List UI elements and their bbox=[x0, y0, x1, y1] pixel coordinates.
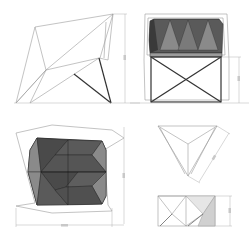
dimension-label-triangle-height bbox=[229, 208, 232, 213]
top-view bbox=[16, 125, 125, 227]
dimension-label-triangle-side bbox=[212, 155, 217, 161]
triangle-elevation-view bbox=[158, 196, 232, 226]
drawing-canvas bbox=[0, 0, 249, 236]
side-view bbox=[14, 14, 140, 103]
triangle-plan-view bbox=[158, 126, 230, 183]
dimension-label-top-depth bbox=[61, 224, 68, 227]
dimension-label-side-height bbox=[124, 55, 127, 60]
dimension-label-top-width bbox=[123, 173, 126, 178]
dimension-label-front-leg-height bbox=[238, 76, 241, 81]
front-view bbox=[130, 14, 249, 103]
